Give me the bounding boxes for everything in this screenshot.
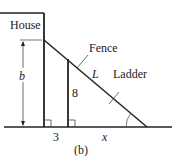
gap-label: 3 [53,130,59,144]
height-label: b [19,69,25,83]
caption-label: (b) [74,143,88,156]
fence-leader [77,55,88,68]
fence-height-label: 8 [72,86,78,100]
ladder-label: Ladder [113,67,147,81]
right-angle-fence [68,120,75,127]
right-angle-house [44,120,51,127]
arrow-down-icon [21,121,25,126]
fence-label: Fence [89,41,118,55]
angle-arc [126,113,131,127]
house-label: House [10,18,41,32]
ladder-fence-diagram: House Fence Ladder L b 8 3 x (b) [0,0,176,156]
arrow-up-icon [21,41,25,46]
distance-label: x [101,130,108,144]
ladder-length-label: L [91,67,99,81]
